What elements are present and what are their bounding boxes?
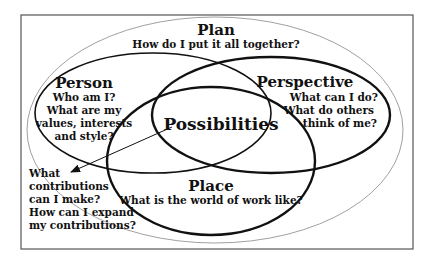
callout-line: my contributions? [29,219,136,231]
perspective-line: What do others [283,104,374,116]
person-line: values, interests [35,117,133,129]
perspective-title: Perspective [257,73,354,91]
person-title: Person [55,74,113,92]
callout-line: contributions [29,180,109,192]
plan-question: How do I put it all together? [132,38,299,50]
person-line: and style? [54,130,113,142]
person-line: Who am I? [52,91,116,103]
place-title: Place [188,177,233,195]
place-question: What is the world of work like? [118,194,302,206]
plan-title: Plan [197,21,235,39]
possibilities-label: Possibilities [163,114,278,134]
venn-diagram: Plan How do I put it all together? Perso… [0,0,433,264]
callout-line: What [28,167,60,179]
callout-line: can I make? [29,193,100,205]
perspective-line: What can I do? [289,91,378,103]
person-line: What are my [46,104,123,116]
perspective-line: think of me? [303,117,377,129]
callout-line: How can I expand [29,206,134,218]
